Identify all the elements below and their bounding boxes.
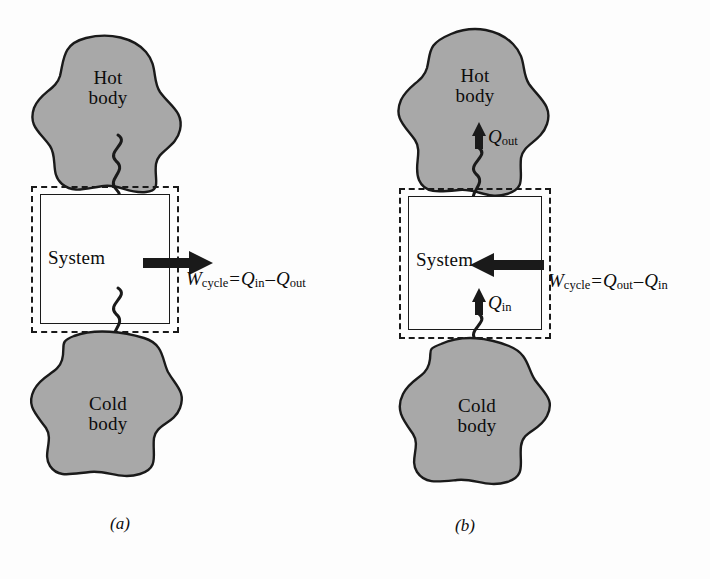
- equals-sign: =: [590, 270, 603, 291]
- work-term2-symbol: Q: [276, 268, 290, 289]
- work-term1-subscript: in: [255, 276, 265, 290]
- panel-a-caption: (a): [92, 514, 148, 534]
- work-term2-subscript: in: [658, 278, 668, 292]
- work-symbol: W: [186, 268, 202, 289]
- heat-out-symbol: Q: [488, 126, 502, 147]
- work-term1-symbol: Q: [241, 268, 255, 289]
- work-subscript: cycle: [564, 278, 590, 292]
- panel-b-caption: (b): [437, 516, 493, 536]
- work-subscript: cycle: [202, 276, 228, 290]
- work-term2-symbol: Q: [644, 270, 658, 291]
- work-term1-symbol: Q: [603, 270, 617, 291]
- panel-b-caption-text: (b): [455, 516, 475, 535]
- panel-a: Hot body Qin System Wcycle=Qin–Qout: [0, 0, 355, 579]
- minus-sign: –: [264, 268, 276, 289]
- thermodynamic-cycle-figure: Hot body Qin System Wcycle=Qin–Qout: [0, 0, 710, 579]
- system-label: System: [48, 247, 105, 269]
- system-label: System: [416, 249, 473, 271]
- work-symbol: W: [548, 270, 564, 291]
- work-equation: Wcycle=Qout–Qin: [548, 270, 668, 293]
- heat-out-subscript: out: [502, 134, 518, 148]
- heat-in-subscript: in: [502, 300, 512, 314]
- hot-body-label: Hot body: [425, 66, 525, 106]
- work-term2-subscript: out: [290, 276, 306, 290]
- cold-body-label: Cold body: [58, 394, 158, 434]
- heat-in-symbol: Q: [488, 292, 502, 313]
- panel-b: Hot body Qout System Wcycle=Qout–Qin Qin: [355, 0, 710, 579]
- equals-sign: =: [228, 268, 241, 289]
- hot-body-label: Hot body: [58, 68, 158, 108]
- work-equation: Wcycle=Qin–Qout: [186, 268, 306, 291]
- cold-body-label: Cold body: [427, 396, 527, 436]
- minus-sign: –: [633, 270, 645, 291]
- panel-a-caption-text: (a): [110, 514, 130, 533]
- work-term1-subscript: out: [617, 278, 633, 292]
- work-arrow-left: [468, 252, 544, 278]
